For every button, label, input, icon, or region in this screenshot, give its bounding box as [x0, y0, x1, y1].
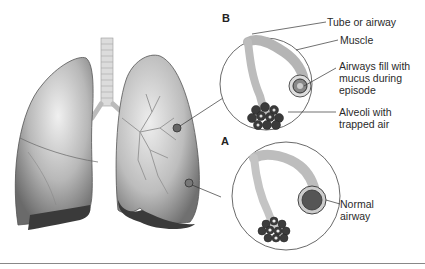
- panel-a-letter: A: [221, 135, 229, 147]
- bottom-rule: [0, 263, 425, 264]
- label-muscle: Muscle: [340, 34, 373, 46]
- label-normal-airway: Normal airway: [340, 198, 374, 222]
- label-tube-or-airway: Tube or airway: [327, 16, 396, 28]
- label-airways-mucus: Airways fill with mucus during episode: [339, 60, 410, 96]
- label-alveoli-trapped-air: Alveoli with trapped air: [339, 106, 392, 130]
- panel-b-letter: B: [222, 12, 230, 24]
- right-lung: [15, 57, 98, 230]
- panel-b-circle: [220, 38, 312, 130]
- left-lung: [116, 55, 199, 229]
- marker-a: [185, 179, 193, 187]
- marker-b: [173, 124, 181, 132]
- panel-a-circle: [232, 142, 340, 250]
- asthma-lung-diagram: B A Tube or airway Muscle Airways fill w…: [0, 0, 425, 269]
